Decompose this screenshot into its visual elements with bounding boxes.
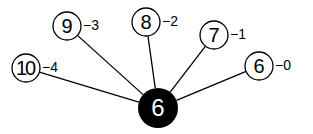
edge-7-to-center <box>170 46 205 92</box>
tree-node: 7−1 <box>200 21 246 49</box>
node-weight: −0 <box>275 57 291 73</box>
node-label: 9 <box>61 15 72 37</box>
tree-node: 8−2 <box>132 8 178 36</box>
node-weight: −1 <box>230 26 246 42</box>
edge-6-to-center <box>176 71 246 100</box>
tree-node: 10−4 <box>12 54 58 82</box>
node-weight: −2 <box>162 13 178 29</box>
edge-9-to-center <box>77 35 143 94</box>
node-weight: −4 <box>42 59 58 75</box>
tree-diagram: 10−49−38−27−16−0 6 <box>0 0 313 134</box>
node-label: 10 <box>16 57 36 79</box>
tree-node: 9−3 <box>53 12 99 40</box>
edge-8-to-center <box>148 36 155 88</box>
node-weight: −3 <box>83 17 99 33</box>
node-label: 6 <box>253 55 264 77</box>
node-label: 8 <box>140 11 151 33</box>
node-label: 7 <box>208 24 219 46</box>
tree-node: 6−0 <box>245 52 291 80</box>
center-node-label: 6 <box>151 94 164 121</box>
